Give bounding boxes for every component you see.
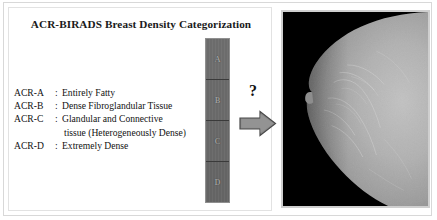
density-category-column: A B C D bbox=[205, 38, 230, 203]
legend-item-acr-c: ACR-C:Glandular and Connective bbox=[14, 112, 204, 125]
density-cell-a: A bbox=[206, 39, 229, 80]
legend-label: tissue (Heterogeneously Dense) bbox=[64, 127, 186, 138]
legend-label: Dense Fibroglandular Tissue bbox=[62, 100, 172, 111]
density-cell-label: B bbox=[215, 96, 221, 105]
legend-code: ACR-C bbox=[14, 112, 55, 125]
figure-root: ACR-BIRADS Breast Density Categorization… bbox=[0, 0, 437, 220]
legend-item-acr-b: ACR-B:Dense Fibroglandular Tissue bbox=[14, 99, 204, 112]
figure-title: ACR-BIRADS Breast Density Categorization bbox=[12, 18, 270, 30]
legend-item-acr-c-continuation: tissue (Heterogeneously Dense) bbox=[14, 126, 204, 139]
density-cell-label: D bbox=[214, 178, 220, 187]
density-cell-b: B bbox=[206, 80, 229, 121]
density-cell-label: C bbox=[214, 137, 220, 146]
legend-item-acr-a: ACR-A:Entirely Fatty bbox=[14, 86, 204, 99]
right-arrow-icon bbox=[239, 110, 277, 137]
legend-label: Entirely Fatty bbox=[62, 87, 115, 98]
mammogram-image-panel bbox=[281, 10, 430, 208]
legend-separator: : bbox=[55, 139, 62, 152]
legend-separator: : bbox=[55, 99, 62, 112]
density-cell-label: A bbox=[214, 55, 220, 64]
legend-label: Extremely Dense bbox=[62, 140, 128, 151]
legend-item-acr-d: ACR-D:Extremely Dense bbox=[14, 139, 204, 152]
density-cell-c: C bbox=[206, 121, 229, 162]
mammogram-image bbox=[283, 12, 428, 206]
category-legend: ACR-A:Entirely Fatty ACR-B:Dense Fibrogl… bbox=[14, 86, 204, 152]
legend-code: ACR-A bbox=[14, 86, 55, 99]
legend-code: ACR-D bbox=[14, 139, 55, 152]
legend-code: ACR-B bbox=[14, 99, 55, 112]
density-cell-d: D bbox=[206, 162, 229, 202]
legend-label: Glandular and Connective bbox=[62, 113, 163, 124]
legend-separator: : bbox=[55, 112, 62, 125]
legend-separator: : bbox=[55, 86, 62, 99]
question-mark-symbol: ? bbox=[244, 82, 262, 100]
